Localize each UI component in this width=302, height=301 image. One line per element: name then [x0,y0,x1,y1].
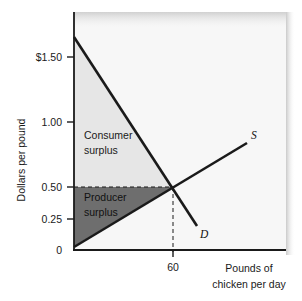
y-tick-label-025: 0.25 [42,213,63,225]
y-tick-label-100: 1.00 [42,116,63,128]
x-axis-title-line2: chicken per day [212,278,286,290]
demand-curve-label: D [199,228,209,240]
consumer-surplus-label-line1: Consumer [84,129,133,141]
supply-curve-label: S [251,129,257,141]
producer-surplus-label-line2: surplus [84,206,118,218]
supply-demand-chart: $1.50 1.00 0.50 0.25 0 60 Dollars per po… [0,0,302,301]
panel-top-shading [74,12,286,28]
y-axis-title: Dollars per pound [15,118,27,201]
producer-surplus-label-line1: Producer [84,191,127,203]
x-axis-title-line1: Pounds of [225,262,272,274]
y-tick-label-0: 0 [56,244,62,256]
supply-demand-figure: $1.50 1.00 0.50 0.25 0 60 Dollars per po… [0,0,302,301]
y-tick-label-050: 0.50 [42,181,63,193]
panel-right-shadow [286,12,295,255]
consumer-surplus-label-line2: surplus [84,144,118,156]
y-tick-label-150: $1.50 [36,51,62,63]
x-tick-label-60: 60 [167,261,179,273]
